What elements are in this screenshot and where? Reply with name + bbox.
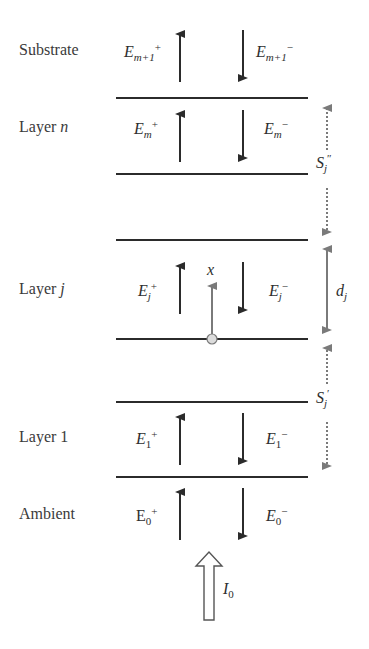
field-superscript: + bbox=[155, 41, 161, 53]
field-forward-layer-1: E1+ bbox=[136, 428, 158, 450]
field-symbol: E bbox=[124, 43, 134, 60]
position-axis-label: x bbox=[207, 261, 214, 279]
field-superscript: − bbox=[281, 505, 287, 517]
origin-circle-icon bbox=[207, 334, 217, 344]
field-backward-layer-j: Ej− bbox=[269, 280, 288, 302]
incident-light-arrow-icon bbox=[196, 552, 222, 620]
field-forward-layer-n: Em+ bbox=[134, 118, 158, 140]
layer-label-layer-j: Layer j bbox=[19, 280, 65, 298]
field-arrows bbox=[180, 30, 243, 540]
field-backward-ambient: E0− bbox=[266, 505, 288, 527]
lower-stack-label: Sj′ bbox=[316, 387, 329, 409]
field-forward-substrate: Em+1+ bbox=[124, 41, 161, 63]
field-symbol: E bbox=[136, 430, 146, 447]
layer-label-text: Layer 1 bbox=[19, 428, 68, 445]
field-superscript: − bbox=[287, 41, 293, 53]
layer-label-substrate: Substrate bbox=[19, 41, 79, 59]
incident-intensity-label: I0 bbox=[223, 580, 234, 600]
field-superscript: − bbox=[281, 428, 287, 440]
stack-superscript: ′ bbox=[327, 387, 329, 399]
field-subscript: m+1 bbox=[266, 51, 287, 63]
field-symbol: E bbox=[266, 430, 276, 447]
layer-label-index: j bbox=[60, 280, 64, 297]
position-axis bbox=[207, 286, 217, 344]
layer-label-text: Ambient bbox=[19, 505, 75, 522]
field-forward-layer-j: Ej+ bbox=[138, 280, 157, 302]
field-subscript: m bbox=[144, 128, 152, 140]
field-symbol: E bbox=[136, 507, 146, 524]
field-superscript: + bbox=[151, 505, 157, 517]
stack-symbol: S bbox=[316, 154, 324, 171]
layer-label-layer-n: Layer n bbox=[19, 118, 68, 136]
field-superscript: + bbox=[151, 428, 157, 440]
field-superscript: + bbox=[152, 118, 158, 130]
field-subscript: m+1 bbox=[134, 51, 155, 63]
stack-superscript: ″ bbox=[327, 152, 332, 164]
field-superscript: − bbox=[282, 118, 288, 130]
layer-label-layer-1: Layer 1 bbox=[19, 428, 68, 446]
layer-label-text: Layer bbox=[19, 280, 60, 297]
field-symbol: E bbox=[269, 282, 279, 299]
layer-label-index: n bbox=[60, 118, 68, 135]
layer-label-ambient: Ambient bbox=[19, 505, 75, 523]
field-superscript: − bbox=[282, 280, 288, 292]
stack-symbol: S bbox=[316, 389, 324, 406]
field-forward-ambient: E0+ bbox=[136, 505, 158, 527]
thickness-symbol: d bbox=[336, 282, 344, 299]
layer-label-text: Layer bbox=[19, 118, 60, 135]
diagram-canvas bbox=[0, 0, 369, 649]
layer-label-text: Substrate bbox=[19, 41, 79, 58]
field-symbol: E bbox=[264, 120, 274, 137]
upper-stack-label: Sj″ bbox=[316, 152, 332, 174]
field-superscript: + bbox=[151, 280, 157, 292]
field-symbol: E bbox=[256, 43, 266, 60]
thickness-subscript: j bbox=[344, 290, 347, 302]
field-subscript: m bbox=[274, 128, 282, 140]
field-symbol: E bbox=[134, 120, 144, 137]
field-backward-layer-1: E1− bbox=[266, 428, 288, 450]
axis-symbol: x bbox=[207, 261, 214, 278]
intensity-subscript: 0 bbox=[228, 588, 234, 600]
field-backward-substrate: Em+1− bbox=[256, 41, 293, 63]
field-backward-layer-n: Em− bbox=[264, 118, 288, 140]
field-symbol: E bbox=[266, 507, 276, 524]
field-symbol: E bbox=[138, 282, 148, 299]
thickness-label: dj bbox=[336, 282, 347, 302]
